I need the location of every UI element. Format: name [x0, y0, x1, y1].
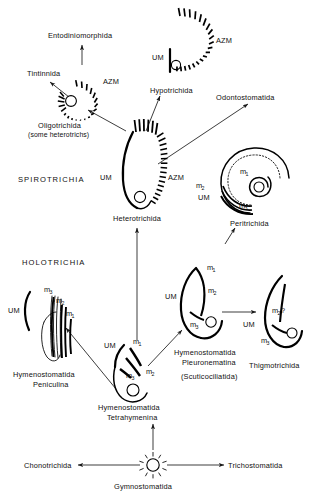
structure-label-m1-tetrahymenina: m 1	[133, 337, 142, 347]
structure-label-azm-hypotrichida: AZM	[216, 36, 232, 45]
taxon-sublabel2-pleuronematina: (Scuticociliatida)	[181, 372, 238, 381]
structure-label-m2-peritrichida: m 2	[196, 181, 205, 191]
svg-text:3: 3	[50, 289, 53, 295]
structure-label-azm-oligotrichida: AZM	[103, 77, 119, 86]
structure-label-m1-pleuronematina: m 1	[207, 263, 216, 273]
taxon-label-peniculina: Hymenostomatida	[13, 370, 76, 379]
connection-arrows	[50, 45, 256, 465]
svg-text:2: 2	[202, 185, 205, 191]
svg-text:3: 3	[196, 324, 199, 330]
taxon-sublabel-tetrahymenina: Tetrahymenina	[107, 413, 158, 422]
arrow-tetrahymenina-to-peniculina	[66, 328, 116, 389]
taxon-label-chonotrichida: Chonotrichida	[24, 461, 72, 470]
svg-text:1: 1	[72, 313, 75, 319]
svg-text:3: 3	[245, 205, 248, 211]
svg-text:2: 2	[214, 290, 217, 296]
organism-hypotrichida	[170, 8, 214, 72]
structure-label-um-peritrichida: UM	[198, 193, 210, 202]
svg-text:3: 3	[132, 375, 135, 381]
arrow-heterotrichida-to-peritrichida	[225, 228, 235, 244]
structure-label-m3-peniculina: m 3	[44, 285, 53, 295]
structure-label-um-pleuronematina: UM	[165, 292, 177, 301]
taxon-label-trichostomatida: Trichostomatida	[228, 461, 283, 470]
structure-label-m2-tetrahymenina: m 2	[146, 367, 155, 377]
taxon-label-heterotrichida: Heterotrichida	[113, 214, 162, 223]
svg-text:1: 1	[246, 171, 249, 177]
taxon-sublabel-oligotrichida: (some heterotrichs)	[28, 131, 89, 139]
taxon-label-tintinnida: Tintinnida	[27, 69, 61, 78]
structure-label-m1-peniculina: m 1	[66, 309, 75, 319]
organism-heterotrichida	[123, 119, 168, 209]
taxon-label-hypotrichida: Hypotrichida	[150, 86, 194, 95]
organism-gymnostomatida	[139, 452, 166, 478]
group-label-spirotrichia: SPIROTRICHIA	[18, 175, 85, 184]
structure-label-m3-tetrahymenina: m 3	[126, 371, 135, 381]
structure-label-um-tetrahymenina: UM	[104, 341, 116, 350]
diagram-canvas: SPIROTRICHIA HOLOTRICHIA Entodiniomorphi…	[0, 0, 312, 499]
taxon-label-gymnostomatida: Gymnostomatida	[114, 482, 173, 491]
structure-label-m3-thigmotrichida: m 3	[261, 336, 270, 346]
ciliate-phylogeny-diagram: SPIROTRICHIA HOLOTRICHIA Entodiniomorphi…	[0, 0, 312, 499]
svg-text:3: 3	[267, 340, 270, 346]
taxon-label-peritrichida: Peritrichida	[230, 219, 270, 228]
svg-text:1: 1	[213, 267, 216, 273]
svg-text:1: 1	[139, 341, 142, 347]
taxon-label-odontostomatida: Odontostomatida	[216, 93, 275, 102]
taxon-label-tetrahymenina: Hymenostomatida	[98, 403, 161, 412]
structure-label-um-hypotrichida: UM	[152, 53, 164, 62]
structure-label-m2-pleuronematina: m 2	[208, 286, 217, 296]
structure-label-m1-peritrichida: m 1	[240, 167, 249, 177]
structure-label-um-heterotrichida: UM	[100, 173, 112, 182]
group-label-holotrichia: HOLOTRICHIA	[22, 258, 85, 267]
taxon-label-entodiniomorphida: Entodiniomorphida	[48, 31, 113, 40]
taxon-label-pleuronematina: Hymenostomatida	[174, 348, 237, 357]
structure-label-m3-peritrichida: m 3	[239, 201, 248, 211]
svg-text:2: 2	[152, 371, 155, 377]
organism-oligotrichida	[58, 80, 98, 120]
svg-text:?: ?	[281, 306, 285, 315]
organism-peritrichida	[221, 148, 289, 214]
organism-pleuronematina	[181, 268, 222, 338]
taxon-sublabel-pleuronematina: Pleuronematina	[182, 358, 237, 367]
structure-label-um-peniculina: UM	[8, 306, 20, 315]
taxon-label-thigmotrichida: Thigmotrichida	[249, 361, 300, 370]
structure-label-azm-heterotrichida: AZM	[168, 173, 184, 182]
structure-label-m3-pleuronematina: m 3	[190, 320, 199, 330]
taxon-sublabel-peniculina: Peniculina	[33, 380, 69, 389]
taxon-label-oligotrichida: Oligotrichida	[38, 121, 82, 130]
svg-text:2: 2	[62, 300, 65, 306]
structure-label-m2-peniculina: m 2	[56, 296, 65, 306]
structure-label-um-thigmotrichida: UM	[243, 320, 255, 329]
structure-label-m2-thigmotrichida: m 2 ?	[272, 306, 285, 316]
